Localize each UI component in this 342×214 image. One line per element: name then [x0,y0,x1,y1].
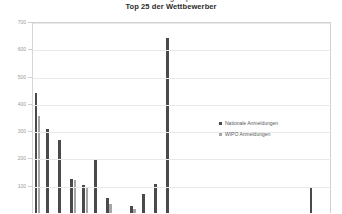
y-axis-tick-mark [28,77,32,78]
bar [58,140,61,213]
bar [154,184,157,213]
y-axis-tick-mark [28,186,32,187]
gridline [33,105,332,106]
chart-legend: Nationale Anmeldungen WIPO Anmeldungen [219,118,278,140]
chart-title: Top 25 der Wettbewerber [0,2,342,11]
bar [82,185,85,213]
bar [130,206,133,213]
y-axis-tick-label: 500 [2,74,26,80]
gridline [33,78,332,79]
bar [46,129,49,213]
gridline [33,50,332,51]
gridline [33,132,332,133]
bar [86,187,89,213]
legend-label: WIPO Anmeldungen [225,129,270,140]
y-axis-tick-mark [28,104,32,105]
y-axis-tick-label: 600 [2,46,26,52]
chart-screenshot: Anzahl der Anmeldungen pro Wettbewerber … [0,0,342,213]
y-axis-tick-mark [28,158,32,159]
bar [38,116,41,213]
bar [109,204,112,213]
bar [133,209,136,213]
y-axis-tick-mark [28,22,32,23]
y-axis-tick-label: 300 [2,128,26,134]
legend-item: WIPO Anmeldungen [219,129,278,140]
y-axis-tick-label: 100 [2,183,26,189]
y-axis-tick-label: 400 [2,101,26,107]
y-axis-tick-mark [28,131,32,132]
y-axis-tick-mark [28,49,32,50]
plot-area [32,22,331,213]
gridline [33,187,332,188]
bars-layer [33,23,332,213]
legend-item: Nationale Anmeldungen [219,118,278,129]
legend-swatch-icon [219,122,222,125]
bar [310,188,313,213]
bar [106,198,109,213]
legend-swatch-icon [219,133,222,136]
y-axis-tick-label: 200 [2,155,26,161]
bar [142,194,145,213]
y-axis-tick-label: 700 [2,19,26,25]
legend-label: Nationale Anmeldungen [225,118,278,129]
bar [70,179,73,214]
gridline [33,23,332,24]
gridline [33,159,332,160]
bar [74,180,77,213]
